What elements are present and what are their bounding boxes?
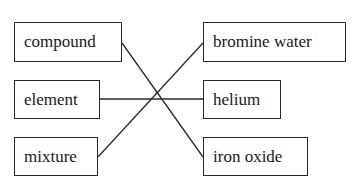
right-box-helium: helium [203,80,281,119]
left-box-element: element [14,80,100,119]
left-label-mixture: mixture [24,147,77,167]
right-label-bromine-water: bromine water [213,32,312,52]
right-box-bromine-water: bromine water [203,22,346,62]
line-compound-iron-oxide [122,43,203,157]
left-label-compound: compound [24,32,96,52]
left-label-element: element [24,90,78,110]
right-label-iron-oxide: iron oxide [213,147,282,167]
right-label-helium: helium [213,90,260,110]
left-box-mixture: mixture [14,137,98,176]
left-box-compound: compound [14,22,122,62]
right-box-iron-oxide: iron oxide [203,137,308,176]
